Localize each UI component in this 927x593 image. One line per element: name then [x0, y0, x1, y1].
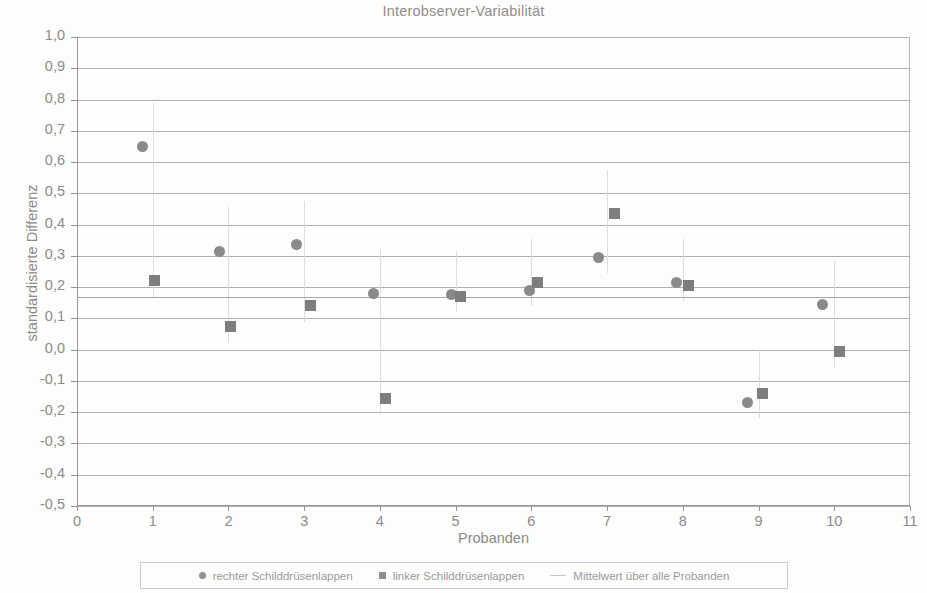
y-tick-label: 0,5: [17, 183, 65, 199]
y-tick-label: 0,7: [17, 121, 65, 137]
x-tick-mark: [77, 506, 78, 511]
y-tick-mark: [71, 287, 78, 288]
dropline: [153, 103, 154, 297]
x-tick-label: 1: [133, 513, 173, 529]
gridline-horizontal: [77, 443, 910, 444]
data-point-square: [834, 346, 845, 357]
y-tick-label: 1,0: [17, 27, 65, 43]
y-tick-label: -0,3: [17, 433, 65, 449]
gridline-horizontal: [77, 350, 910, 351]
y-tick-mark: [71, 350, 78, 351]
legend-entry[interactable]: Mittelwert über alle Probanden: [550, 570, 729, 582]
y-tick-label: 0,2: [17, 277, 65, 293]
gridline-horizontal: [77, 287, 910, 288]
data-point-square: [609, 208, 620, 219]
y-tick-mark: [71, 412, 78, 413]
gridline-horizontal: [77, 68, 910, 69]
x-tick-mark: [607, 506, 608, 511]
legend-line-icon: [550, 575, 566, 576]
dropline: [456, 251, 457, 312]
data-point-square: [305, 300, 316, 311]
legend-label: rechter Schilddrüsenlappen: [213, 570, 353, 582]
gridline-horizontal: [77, 162, 910, 163]
y-tick-mark: [71, 193, 78, 194]
data-point-circle: [214, 246, 225, 257]
data-point-square: [532, 277, 543, 288]
gridline-horizontal: [77, 381, 910, 382]
x-tick-label: 7: [587, 513, 627, 529]
gridline-horizontal: [77, 131, 910, 132]
x-tick-label: 10: [814, 513, 854, 529]
y-tick-label: 0,1: [17, 308, 65, 324]
data-point-square: [455, 291, 466, 302]
data-point-square: [683, 280, 694, 291]
x-tick-mark: [228, 506, 229, 511]
y-tick-mark: [71, 381, 78, 382]
x-tick-label: 11: [890, 513, 927, 529]
x-tick-mark: [834, 506, 835, 511]
dropline: [759, 350, 760, 419]
dropline: [607, 170, 608, 273]
dropline: [380, 250, 381, 414]
y-axis-label: standardisierte Differenz: [24, 128, 40, 398]
x-tick-label: 3: [284, 513, 324, 529]
y-tick-label: 0,8: [17, 90, 65, 106]
x-tick-mark: [759, 506, 760, 511]
data-point-square: [757, 388, 768, 399]
plot-area: 1,00,90,80,70,60,50,40,30,20,10,0-0,1-0,…: [77, 37, 910, 506]
data-point-square: [380, 393, 391, 404]
y-tick-mark: [71, 68, 78, 69]
y-tick-mark: [71, 100, 78, 101]
mean-line: [77, 297, 910, 298]
x-tick-mark: [456, 506, 457, 511]
y-tick-label: -0,2: [17, 402, 65, 418]
y-tick-label: 0,6: [17, 152, 65, 168]
legend-label: Mittelwert über alle Probanden: [573, 570, 729, 582]
data-point-square: [225, 321, 236, 332]
gridline-horizontal: [77, 100, 910, 101]
x-tick-label: 5: [436, 513, 476, 529]
x-tick-label: 8: [663, 513, 703, 529]
x-tick-mark: [910, 506, 911, 511]
x-tick-label: 9: [739, 513, 779, 529]
y-tick-mark: [71, 318, 78, 319]
y-tick-mark: [71, 443, 78, 444]
x-tick-label: 2: [208, 513, 248, 529]
chart-figure: Interobserver-Variabilität standardisier…: [0, 0, 927, 593]
y-tick-mark: [71, 162, 78, 163]
legend-entry[interactable]: linker Schilddrüsenlappen: [379, 570, 525, 582]
x-tick-mark: [153, 506, 154, 511]
legend-label: linker Schilddrüsenlappen: [393, 570, 525, 582]
x-tick-mark: [380, 506, 381, 511]
dropline: [683, 239, 684, 302]
x-tick-label: 4: [360, 513, 400, 529]
legend-entry[interactable]: rechter Schilddrüsenlappen: [199, 570, 353, 582]
x-tick-mark: [304, 506, 305, 511]
data-point-circle: [742, 397, 753, 408]
x-tick-mark: [683, 506, 684, 511]
gridline-horizontal: [77, 318, 910, 319]
y-tick-mark: [71, 256, 78, 257]
x-axis-label: Probanden: [77, 530, 910, 546]
plot-frame: [77, 37, 910, 506]
legend-square-icon: [379, 572, 386, 579]
gridline-horizontal: [77, 412, 910, 413]
legend-circle-icon: [199, 572, 206, 579]
y-tick-mark: [71, 225, 78, 226]
x-tick-mark: [531, 506, 532, 511]
y-tick-mark: [71, 37, 78, 38]
y-tick-label: 0,4: [17, 215, 65, 231]
y-tick-label: 0,0: [17, 340, 65, 356]
chart-title: Interobserver-Variabilität: [0, 3, 927, 19]
gridline-horizontal: [77, 225, 910, 226]
y-tick-label: -0,1: [17, 371, 65, 387]
y-tick-mark: [71, 131, 78, 132]
gridline-horizontal: [77, 37, 910, 38]
gridline-horizontal: [77, 193, 910, 194]
y-tick-label: 0,3: [17, 246, 65, 262]
y-tick-label: -0,5: [17, 496, 65, 512]
gridline-horizontal: [77, 475, 910, 476]
y-tick-label: 0,9: [17, 58, 65, 74]
y-tick-label: -0,4: [17, 465, 65, 481]
x-tick-label: 6: [511, 513, 551, 529]
